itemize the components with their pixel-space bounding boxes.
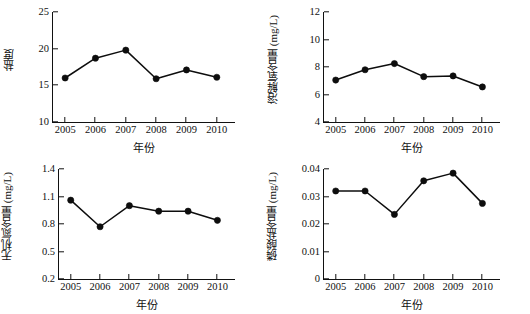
y-tick-mark	[59, 168, 64, 169]
y-tick-mark	[53, 85, 58, 86]
x-tick-label: 2006	[90, 282, 111, 293]
x-tick-label: 2010	[472, 282, 493, 293]
chart-panel-dissolved-oxygen: 溶解氧含量 (mg/L) 468101220052006200720082009…	[265, 0, 530, 157]
y-tick-label: 0.04	[302, 164, 320, 175]
x-axis-title: 年份	[53, 139, 235, 155]
series-line-salinity	[53, 12, 235, 122]
plot-area: 0.20.50.81.11.4200520062007200820092010年…	[58, 169, 235, 280]
x-tick-mark	[217, 274, 218, 279]
x-tick-mark	[482, 274, 483, 279]
series-polyline	[336, 173, 483, 214]
x-tick-mark	[364, 274, 365, 279]
x-tick-mark	[364, 117, 365, 122]
chart-panel-inorganic-nitrogen: 无机氮含量 (mg/L) 0.20.50.81.11.4200520062007…	[0, 157, 265, 314]
data-point-marker	[362, 67, 368, 73]
y-tick-label: 0.02	[302, 219, 320, 230]
x-tick-mark	[452, 117, 453, 122]
x-tick-mark	[129, 274, 130, 279]
x-tick-label: 2008	[413, 282, 434, 293]
data-point-marker	[126, 203, 132, 209]
x-tick-mark	[394, 117, 395, 122]
plot-area: 00.010.020.030.0420052006200720082009201…	[323, 169, 500, 280]
figure-four-panel-line-charts: 盐度 10152025200520062007200820092010年份 溶解…	[0, 0, 530, 314]
x-tick-label: 2008	[413, 125, 434, 136]
y-axis-title: 无机氮含量 (mg/L)	[2, 157, 13, 277]
y-tick-label: 15	[39, 80, 50, 91]
y-tick-label: 0.5	[42, 246, 55, 257]
x-tick-mark	[423, 274, 424, 279]
data-point-marker	[450, 170, 456, 176]
x-tick-label: 2010	[206, 125, 227, 136]
data-point-marker	[185, 208, 191, 214]
x-tick-label: 2005	[60, 282, 81, 293]
x-tick-label: 2006	[355, 125, 376, 136]
data-point-marker	[183, 67, 189, 73]
data-point-marker	[421, 178, 427, 184]
x-tick-mark	[155, 117, 156, 122]
data-point-marker	[62, 75, 68, 81]
y-axis-title: 磷酸盐含量 (mg/L)	[267, 157, 278, 277]
data-point-marker	[156, 208, 162, 214]
y-tick-mark	[324, 11, 329, 12]
y-tick-mark	[324, 251, 329, 252]
y-tick-label: 25	[39, 7, 50, 18]
y-tick-label: 8	[315, 62, 320, 73]
data-point-marker	[68, 197, 74, 203]
series-polyline	[65, 50, 217, 79]
x-tick-label: 2009	[443, 125, 464, 136]
x-tick-label: 2005	[325, 282, 346, 293]
y-tick-label: 10	[39, 117, 50, 128]
series-line-inorganic-nitrogen	[59, 169, 235, 279]
data-point-marker	[214, 217, 220, 223]
data-point-marker	[479, 200, 485, 206]
y-tick-label: 6	[315, 89, 320, 100]
y-tick-mark	[324, 223, 329, 224]
x-tick-label: 2007	[115, 125, 136, 136]
x-tick-label: 2010	[472, 125, 493, 136]
x-tick-mark	[70, 274, 71, 279]
x-axis-title: 年份	[59, 296, 235, 312]
x-tick-mark	[335, 274, 336, 279]
y-tick-mark	[59, 223, 64, 224]
y-tick-mark	[53, 121, 58, 122]
chart-panel-phosphate: 磷酸盐含量 (mg/L) 00.010.020.030.042005200620…	[265, 157, 530, 314]
x-tick-label: 2009	[176, 125, 197, 136]
x-tick-mark	[482, 117, 483, 122]
x-tick-mark	[187, 274, 188, 279]
data-point-marker	[479, 84, 485, 90]
data-point-marker	[333, 77, 339, 83]
data-point-marker	[421, 74, 427, 80]
y-tick-label: 0.01	[302, 246, 320, 257]
data-point-marker	[450, 73, 456, 79]
x-tick-label: 2008	[146, 125, 167, 136]
x-tick-mark	[423, 117, 424, 122]
y-tick-mark	[324, 94, 329, 95]
y-tick-label: 0.8	[42, 219, 55, 230]
x-tick-label: 2005	[55, 125, 76, 136]
x-tick-mark	[394, 274, 395, 279]
y-axis-title: 溶解氧含量 (mg/L)	[268, 0, 279, 120]
y-tick-mark	[324, 196, 329, 197]
chart-panel-salinity: 盐度 10152025200520062007200820092010年份	[0, 0, 265, 157]
x-tick-label: 2007	[384, 282, 405, 293]
y-tick-label: 1.4	[42, 164, 55, 175]
y-tick-mark	[53, 11, 58, 12]
y-tick-label: 0.03	[302, 191, 320, 202]
x-tick-mark	[186, 117, 187, 122]
plot-area: 10152025200520062007200820092010年份	[52, 12, 235, 123]
y-tick-mark	[324, 39, 329, 40]
y-tick-mark	[324, 168, 329, 169]
data-point-marker	[391, 211, 397, 217]
y-tick-label: 0.2	[42, 274, 55, 285]
x-tick-mark	[216, 117, 217, 122]
y-tick-label: 0	[315, 274, 320, 285]
x-tick-mark	[158, 274, 159, 279]
x-tick-mark	[125, 117, 126, 122]
y-tick-mark	[324, 278, 329, 279]
data-point-marker	[123, 47, 129, 53]
x-tick-label: 2008	[148, 282, 169, 293]
series-line-dissolved-oxygen	[324, 12, 500, 122]
x-tick-label: 2009	[178, 282, 199, 293]
series-polyline	[71, 200, 218, 227]
data-point-marker	[362, 188, 368, 194]
